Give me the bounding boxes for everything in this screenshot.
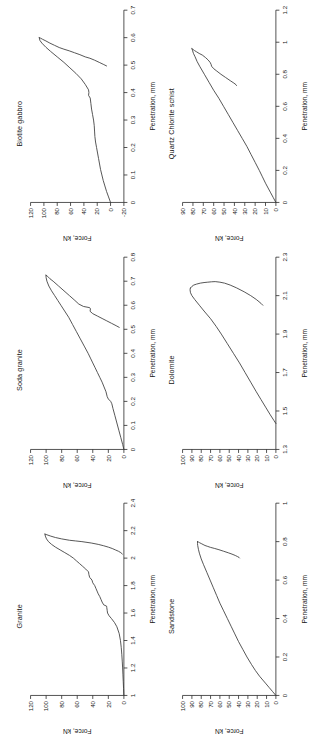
x-tick-label: 0.7	[129, 276, 136, 285]
y-tick-label: 120	[27, 454, 34, 465]
curve-unloading	[46, 274, 119, 326]
curve-loading	[39, 37, 110, 202]
y-tick-label: 0	[272, 207, 279, 211]
x-tick-label: 0.4	[129, 88, 136, 97]
x-tick-label: 0.5	[129, 60, 136, 69]
x-tick-label: 0.2	[129, 142, 136, 151]
y-tick-label: 70	[206, 700, 213, 707]
y-tick-label: 80	[197, 454, 204, 461]
panel-dolomite: Dolomite 1.31.51.71.92.12.3Penetration, …	[160, 246, 303, 492]
panel-biotite-gabbro: Biotite gabbro 00.10.20.30.40.50.60.7Pen…	[9, 0, 161, 246]
x-tick-label: 1.6	[129, 608, 136, 617]
x-tick-label: 1.7	[280, 367, 287, 376]
x-tick-label: 1	[280, 40, 287, 44]
panel-sandstone: Sandstone 00.20.40.60.81Penetration, mm0…	[160, 493, 303, 739]
x-axis-title: Penetration, mm	[300, 574, 303, 623]
x-tick-label: 1.4	[129, 635, 136, 644]
y-tick-label: 60	[216, 700, 223, 707]
panel-quartz-chlorite-schist: Quartz Chlorite schist 00.20.40.60.811.2…	[160, 0, 303, 246]
x-tick-label: 1.9	[280, 328, 287, 337]
y-tick-label: 30	[240, 207, 247, 214]
y-tick-label: 40	[234, 454, 241, 461]
y-tick-label: 80	[53, 207, 60, 214]
x-tick-label: 0.8	[280, 69, 287, 78]
y-axis-title: Force, kN	[214, 235, 243, 242]
x-tick-label: 0	[280, 200, 287, 204]
y-tick-label: 20	[105, 454, 112, 461]
y-axis-title: Force, kN	[63, 482, 92, 489]
y-tick-label: 80	[58, 454, 65, 461]
y-tick-label: 80	[58, 700, 65, 707]
y-tick-label: 40	[89, 700, 96, 707]
chart-svg-quartz-chlorite-schist: 00.20.40.60.811.2Penetration, mm01020304…	[160, 0, 303, 246]
y-tick-label: 20	[251, 207, 258, 214]
plot-area: 00.10.20.30.40.50.60.7Penetration, mm-20…	[9, 0, 161, 246]
curve-loading	[46, 274, 124, 448]
y-tick-label: 70	[199, 207, 206, 214]
x-tick-label: 0.2	[129, 396, 136, 405]
y-tick-label: 60	[209, 207, 216, 214]
y-tick-label: 80	[197, 700, 204, 707]
curve-loading	[197, 541, 275, 695]
x-tick-label: 0.1	[129, 420, 136, 429]
y-tick-label: 20	[93, 207, 100, 214]
x-tick-label: 0.3	[129, 372, 136, 381]
chart-svg-biotite-gabbro: 00.10.20.30.40.50.60.7Penetration, mm-20…	[9, 0, 161, 246]
plot-area: 00.20.40.60.811.2Penetration, mm01020304…	[160, 0, 303, 246]
x-axis-title: Penetration, mm	[149, 574, 156, 623]
plot-area: 00.20.40.60.81Penetration, mm01020304050…	[160, 493, 303, 739]
y-tick-label: 50	[225, 454, 232, 461]
y-tick-label: 70	[206, 454, 213, 461]
x-tick-label: 0.6	[129, 33, 136, 42]
x-tick-label: 0.8	[280, 536, 287, 545]
x-tick-label: 1.2	[129, 663, 136, 672]
x-tick-label: 0.7	[129, 5, 136, 14]
chart-svg-granite: 11.21.41.61.822.22.4Penetration, mm02040…	[9, 493, 161, 739]
plot-area: 11.21.41.61.822.22.4Penetration, mm02040…	[9, 493, 161, 739]
y-axis-title: Force, kN	[63, 235, 92, 242]
x-tick-label: 2.2	[129, 525, 136, 534]
y-tick-label: 50	[225, 700, 232, 707]
x-tick-label: 0.4	[129, 348, 136, 357]
panel-soda-granite: Soda granite 00.10.20.30.40.50.60.70.8Pe…	[9, 246, 161, 492]
x-tick-label: 0.6	[280, 575, 287, 584]
x-tick-label: 0.2	[280, 652, 287, 661]
y-tick-label: 100	[42, 454, 49, 465]
y-tick-label: 90	[178, 207, 185, 214]
x-tick-label: 0.3	[129, 115, 136, 124]
y-tick-label: 60	[73, 700, 80, 707]
plot-area: 1.31.51.71.92.12.3Penetration, mm0102030…	[160, 246, 303, 492]
y-tick-label: 10	[261, 207, 268, 214]
y-tick-label: 40	[234, 700, 241, 707]
x-tick-label: 1.2	[280, 5, 287, 14]
y-tick-label: 50	[220, 207, 227, 214]
x-axis-title: Penetration, mm	[300, 328, 303, 377]
y-tick-label: 100	[178, 454, 185, 465]
chart-svg-soda-granite: 00.10.20.30.40.50.60.70.8Penetration, mm…	[9, 246, 161, 492]
y-tick-label: 40	[89, 454, 96, 461]
y-tick-label: 60	[73, 454, 80, 461]
x-tick-label: 0.6	[280, 101, 287, 110]
y-tick-label: 20	[253, 700, 260, 707]
curve-unloading	[45, 534, 122, 554]
curve-unloading	[190, 281, 262, 305]
chart-svg-dolomite: 1.31.51.71.92.12.3Penetration, mm0102030…	[160, 246, 303, 492]
y-tick-label: 120	[27, 700, 34, 711]
y-tick-label: 0	[120, 700, 127, 704]
y-tick-label: 20	[253, 454, 260, 461]
y-tick-label: -20	[120, 207, 127, 217]
panel-grid: Granite 11.21.41.61.822.22.4Penetration,…	[9, 0, 304, 739]
x-tick-label: 0.1	[129, 170, 136, 179]
x-tick-label: 0	[129, 200, 136, 204]
x-tick-label: 0	[129, 446, 136, 450]
panel-granite: Granite 11.21.41.61.822.22.4Penetration,…	[9, 493, 161, 739]
y-axis-title: Force, kN	[214, 728, 243, 735]
y-axis-title: Force, kN	[214, 482, 243, 489]
curve-unloading	[197, 541, 239, 557]
y-tick-label: 100	[42, 700, 49, 711]
y-tick-label: 100	[178, 700, 185, 711]
y-tick-label: 100	[40, 207, 47, 218]
x-tick-label: 0.8	[129, 252, 136, 261]
x-axis-title: Penetration, mm	[300, 81, 303, 130]
y-tick-label: 120	[27, 207, 34, 218]
